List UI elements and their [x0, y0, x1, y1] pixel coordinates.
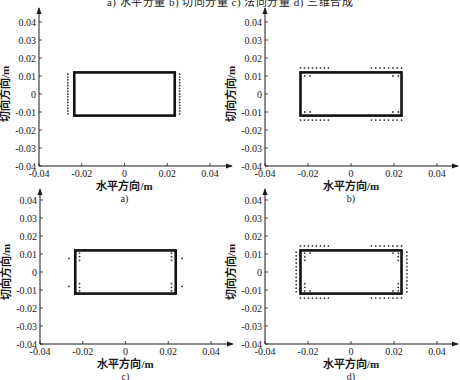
data-point [406, 259, 408, 261]
data-point [304, 252, 306, 254]
data-point [179, 90, 181, 92]
data-point [179, 102, 181, 104]
data-point [295, 259, 297, 261]
chart-panel-a: 0.040.030.020.010-0.01-0.02-0.03-0.04-0.… [0, 8, 232, 205]
y-tick-label: -0.02 [241, 125, 262, 136]
data-point [309, 252, 311, 254]
x-tick-label: -0.04 [30, 346, 51, 357]
y-tick-label: 0.01 [245, 249, 263, 260]
data-point [316, 245, 318, 247]
data-point [383, 119, 385, 121]
data-point [171, 256, 173, 258]
y-tick-label: 0.03 [19, 35, 37, 46]
data-point [396, 297, 398, 299]
data-point [179, 85, 181, 87]
data-point [179, 96, 181, 98]
data-point [406, 277, 408, 279]
data-point [295, 266, 297, 268]
data-point [312, 245, 314, 247]
x-tick-label: -0.04 [255, 346, 276, 357]
data-point [324, 245, 326, 247]
chart-panel-d: 0.040.030.020.010-0.01-0.02-0.03-0.04-0.… [224, 189, 458, 380]
data-point [388, 67, 390, 69]
x-axis-label: 水平方向/m [97, 357, 153, 370]
y-tick-label: -0.02 [16, 303, 37, 314]
data-point [371, 297, 373, 299]
y-axis-label: 切向方向/m [224, 66, 237, 122]
data-point [79, 259, 81, 261]
x-tick-label: -0.02 [298, 168, 319, 179]
data-point [324, 119, 326, 121]
x-tick-label: 0.04 [202, 346, 220, 357]
data-point [309, 111, 311, 113]
y-tick-label: 0.02 [20, 231, 38, 242]
y-tick-label: -0.01 [241, 107, 262, 118]
y-tick-label: -0.01 [16, 285, 37, 296]
data-point [375, 119, 377, 121]
data-point [375, 297, 377, 299]
data-point [397, 252, 399, 254]
x-tick-label: -0.02 [71, 168, 92, 179]
data-point [295, 251, 297, 253]
data-point [312, 297, 314, 299]
data-point [383, 297, 385, 299]
data-point [295, 269, 297, 271]
data-point [300, 119, 302, 121]
y-axis-label: 切向方向/m [0, 244, 12, 300]
data-point [392, 67, 394, 69]
data-point [396, 245, 398, 247]
y-tick-label: 0.02 [245, 53, 263, 64]
y-axis-label: 切向方向/m [224, 244, 237, 300]
data-point [396, 67, 398, 69]
panel-label: b) [347, 193, 355, 205]
data-point [388, 119, 390, 121]
y-tick-label: -0.02 [15, 125, 36, 136]
x-tick-label: 0.04 [428, 168, 446, 179]
data-point [68, 286, 70, 288]
data-point [300, 245, 302, 247]
data-point [316, 119, 318, 121]
data-point [308, 119, 310, 121]
x-axis-label: 水平方向/m [323, 179, 379, 192]
x-tick-label: 0 [349, 346, 354, 357]
figure-canvas: 0.040.030.020.010-0.01-0.02-0.03-0.04-0.… [0, 0, 460, 380]
data-point [401, 297, 403, 299]
y-tick-label: 0.04 [19, 17, 37, 28]
data-point [295, 273, 297, 275]
x-tick-label: -0.02 [298, 346, 319, 357]
data-point [406, 273, 408, 275]
data-point [79, 256, 81, 258]
boundary-rectangle [74, 72, 174, 115]
data-point [406, 266, 408, 268]
data-point [68, 258, 70, 260]
data-point [397, 111, 399, 113]
chart-panel-c: 0.040.030.020.010-0.01-0.02-0.03-0.04-0.… [0, 189, 233, 380]
data-point [67, 73, 69, 75]
y-tick-label: 0.04 [20, 195, 38, 206]
data-point [79, 283, 81, 285]
data-point [308, 67, 310, 69]
data-point [67, 87, 69, 89]
data-point [401, 67, 403, 69]
data-point [179, 87, 181, 89]
data-point [392, 297, 394, 299]
boundary-rectangle [75, 250, 175, 293]
data-point [406, 255, 408, 257]
data-point [179, 82, 181, 84]
data-point [320, 119, 322, 121]
data-point [304, 245, 306, 247]
data-point [396, 119, 398, 121]
y-tick-label: -0.03 [15, 143, 36, 154]
x-axis-label: 水平方向/m [96, 179, 152, 192]
y-tick-label: 0.03 [20, 213, 38, 224]
data-point [397, 286, 399, 288]
data-point [406, 284, 408, 286]
data-point [379, 67, 381, 69]
data-point [308, 297, 310, 299]
data-point [179, 99, 181, 101]
data-point [295, 291, 297, 293]
data-point [371, 67, 373, 69]
data-point [320, 67, 322, 69]
data-point [397, 75, 399, 77]
panel-label: d) [347, 371, 355, 380]
